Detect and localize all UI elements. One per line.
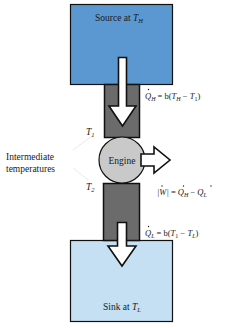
sink-label: Sink at TL xyxy=(103,302,141,313)
svg-text:QL = b(T1 − TL): QL = b(T1 − TL) xyxy=(145,228,198,239)
w-q-l-dot xyxy=(210,185,211,186)
q-l-dot xyxy=(148,226,149,227)
t2-label: T2 xyxy=(86,182,95,193)
svg-text:|W| = QH − QL: |W| = QH − QL xyxy=(157,187,207,198)
t1-leader-line xyxy=(73,136,92,150)
equation-q-h: QH = b(TH − T1) xyxy=(145,89,200,102)
equation-work: |W| = QH − QL xyxy=(157,185,212,198)
svg-text:QH = b(TH − T1): QH = b(TH − T1) xyxy=(145,91,200,102)
equation-q-l: QL = b(T1 − TL) xyxy=(145,226,198,239)
w-dot xyxy=(161,185,162,186)
heat-engine-diagram: Source at TH Sink at TL Engine T1 T2 Int… xyxy=(0,0,231,328)
t1-label: T1 xyxy=(86,127,95,138)
engine-label: Engine xyxy=(109,156,136,166)
t2-leader-line xyxy=(73,168,88,180)
intermediate-label-line2: temperatures xyxy=(6,164,55,174)
q-h-dot xyxy=(148,89,149,90)
w-q-h-dot xyxy=(183,185,184,186)
source-label: Source at TH xyxy=(95,13,143,24)
intermediate-label-line1: Intermediate xyxy=(6,152,54,162)
work-out-arrow-icon xyxy=(141,147,170,173)
